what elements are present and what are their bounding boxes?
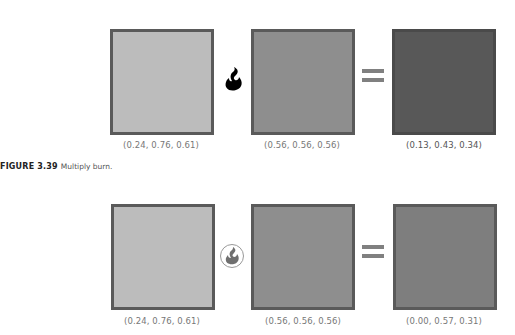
swatch-a — [110, 29, 214, 135]
equals-icon — [362, 69, 384, 83]
multiply-burn-icon — [221, 66, 245, 92]
swatch-b — [251, 29, 355, 135]
figure-caption: FIGURE 3.39Multiply burn. — [0, 162, 112, 171]
swatch-result-label: (0.00, 0.57, 0.31) — [374, 316, 514, 326]
swatch-a-label: (0.24, 0.76, 0.61) — [92, 316, 232, 326]
swatch-b-label: (0.56, 0.56, 0.56) — [233, 316, 373, 326]
swatch-result — [392, 29, 496, 135]
swatch-b-label: (0.56, 0.56, 0.56) — [232, 140, 372, 150]
figure-caption-text: Multiply burn. — [61, 162, 113, 171]
figure-number: FIGURE 3.39 — [0, 162, 58, 171]
swatch-a — [111, 204, 215, 310]
swatch-result — [393, 204, 497, 310]
color-burn-icon — [219, 243, 243, 269]
swatch-a-label: (0.24, 0.76, 0.61) — [91, 140, 231, 150]
equals-icon — [362, 245, 384, 259]
swatch-b — [251, 204, 355, 310]
swatch-result-label: (0.13, 0.43, 0.34) — [374, 140, 514, 150]
